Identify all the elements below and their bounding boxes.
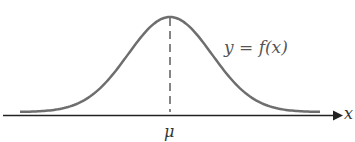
x-axis-label: x xyxy=(344,104,353,123)
bell-curve-diagram xyxy=(0,0,355,142)
function-label: y = f(x) xyxy=(224,37,288,57)
x-axis-arrow-icon xyxy=(333,111,343,121)
mean-label: μ xyxy=(164,122,174,141)
